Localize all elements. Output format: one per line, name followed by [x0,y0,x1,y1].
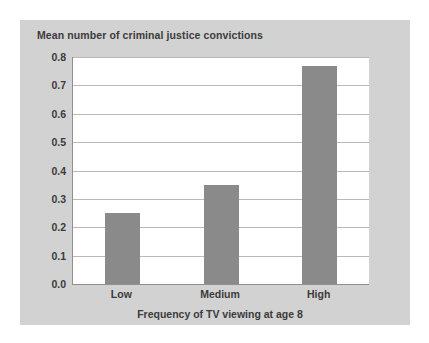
bar [204,185,239,284]
plot-area [72,57,369,285]
x-axis-tick-labels: LowMediumHigh [72,288,368,304]
bar [302,66,337,284]
x-axis-category-label: Low [111,288,132,300]
x-axis-category-label: High [307,288,330,300]
chart-title: Mean number of criminal justice convicti… [37,29,263,41]
y-axis-tick-label: 0.8 [51,51,66,63]
y-axis-tick-label: 0.7 [51,79,66,91]
y-axis-tick-labels: 0.00.10.20.30.40.50.60.70.8 [26,57,66,284]
y-axis-tick-label: 0.6 [51,108,66,120]
y-axis-tick-label: 0.0 [51,278,66,290]
y-axis-tick-label: 0.4 [51,165,66,177]
y-axis-tick-label: 0.5 [51,136,66,148]
y-axis-tick-label: 0.3 [51,193,66,205]
y-axis-tick-label: 0.1 [51,250,66,262]
x-axis-category-label: Medium [200,288,240,300]
y-axis-tick-label: 0.2 [51,221,66,233]
bar [105,213,140,284]
chart-panel: Mean number of criminal justice convicti… [20,20,410,325]
x-axis-title: Frequency of TV viewing at age 8 [72,308,368,320]
gridline [73,57,369,58]
chart-figure: Mean number of criminal justice convicti… [0,0,429,343]
